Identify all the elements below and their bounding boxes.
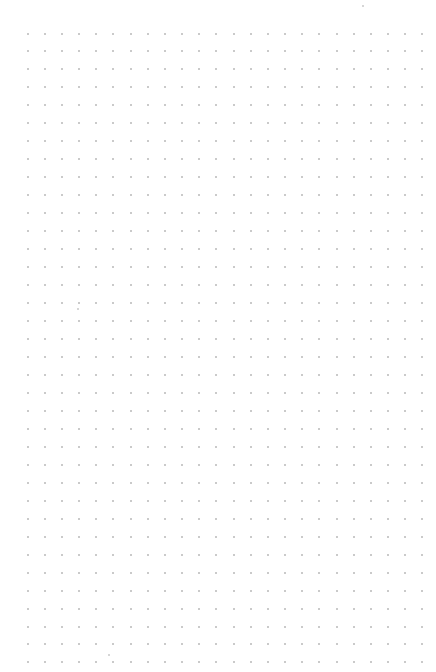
- grid-dot: [250, 122, 252, 124]
- grid-dot: [353, 338, 355, 340]
- grid-dot: [164, 33, 166, 35]
- grid-dot: [421, 86, 423, 88]
- grid-dot: [130, 122, 132, 124]
- grid-dot: [215, 590, 217, 592]
- grid-dot: [215, 50, 217, 52]
- grid-dot: [130, 446, 132, 448]
- grid-dot: [147, 230, 149, 232]
- grid-dot: [215, 338, 217, 340]
- grid-dot: [44, 410, 46, 412]
- grid-dot: [284, 104, 286, 106]
- grid-dot: [421, 140, 423, 142]
- grid-dot: [147, 608, 149, 610]
- grid-dot: [353, 374, 355, 376]
- grid-dot: [421, 536, 423, 538]
- grid-dot: [387, 661, 389, 663]
- grid-dot: [61, 608, 63, 610]
- grid-dot: [404, 356, 406, 358]
- grid-dot: [353, 212, 355, 214]
- grid-dot: [181, 500, 183, 502]
- grid-dot: [336, 410, 338, 412]
- grid-dot: [233, 518, 235, 520]
- grid-dot: [370, 230, 372, 232]
- grid-dot: [78, 482, 80, 484]
- grid-dot: [336, 554, 338, 556]
- grid-dot: [112, 626, 114, 628]
- grid-dot: [387, 554, 389, 556]
- grid-dot: [181, 590, 183, 592]
- grid-dot: [112, 410, 114, 412]
- grid-dot: [181, 661, 183, 663]
- grid-dot: [112, 536, 114, 538]
- grid-dot: [284, 482, 286, 484]
- grid-dot: [353, 248, 355, 250]
- grid-dot: [147, 248, 149, 250]
- grid-dot: [318, 356, 320, 358]
- grid-dot: [421, 194, 423, 196]
- grid-dot: [61, 572, 63, 574]
- grid-dot: [421, 104, 423, 106]
- grid-dot: [164, 374, 166, 376]
- grid-dot: [95, 68, 97, 70]
- grid-dot: [267, 284, 269, 286]
- grid-dot: [301, 33, 303, 35]
- grid-dot: [95, 518, 97, 520]
- grid-dot: [301, 266, 303, 268]
- grid-dot: [215, 392, 217, 394]
- grid-dot: [198, 392, 200, 394]
- grid-dot: [404, 446, 406, 448]
- grid-dot: [336, 194, 338, 196]
- grid-dot: [147, 626, 149, 628]
- grid-dot: [215, 86, 217, 88]
- grid-dot: [181, 518, 183, 520]
- grid-dot: [250, 104, 252, 106]
- grid-dot: [27, 176, 29, 178]
- grid-dot: [370, 194, 372, 196]
- grid-dot: [95, 266, 97, 268]
- grid-dot: [44, 590, 46, 592]
- grid-dot: [336, 266, 338, 268]
- grid-dot: [353, 122, 355, 124]
- grid-dot: [370, 86, 372, 88]
- grid-dot: [353, 446, 355, 448]
- grid-dot: [267, 374, 269, 376]
- dot-grid-canvas[interactable]: [0, 0, 436, 672]
- grid-dot: [215, 158, 217, 160]
- grid-dot: [181, 194, 183, 196]
- grid-dot: [130, 338, 132, 340]
- grid-dot: [404, 68, 406, 70]
- grid-dot: [353, 392, 355, 394]
- grid-dot: [404, 554, 406, 556]
- grid-dot: [387, 302, 389, 304]
- grid-dot: [130, 176, 132, 178]
- grid-dot: [112, 266, 114, 268]
- grid-dot: [147, 33, 149, 35]
- grid-dot: [387, 626, 389, 628]
- grid-dot: [301, 86, 303, 88]
- grid-dot: [181, 230, 183, 232]
- grid-dot: [421, 464, 423, 466]
- grid-dot: [215, 518, 217, 520]
- grid-dot: [421, 33, 423, 35]
- grid-dot: [112, 230, 114, 232]
- grid-dot: [301, 284, 303, 286]
- grid-dot: [112, 518, 114, 520]
- grid-dot: [78, 284, 80, 286]
- grid-dot: [198, 33, 200, 35]
- grid-dot: [130, 428, 132, 430]
- grid-dot: [370, 266, 372, 268]
- grid-dot: [336, 626, 338, 628]
- grid-dot: [370, 590, 372, 592]
- grid-dot: [267, 590, 269, 592]
- grid-dot: [147, 176, 149, 178]
- grid-dot: [250, 248, 252, 250]
- grid-dot: [198, 410, 200, 412]
- grid-dot: [267, 500, 269, 502]
- grid-dot: [370, 176, 372, 178]
- grid-dot: [336, 590, 338, 592]
- grid-dot: [404, 284, 406, 286]
- grid-dot: [301, 248, 303, 250]
- grid-dot: [284, 572, 286, 574]
- grid-dot: [421, 428, 423, 430]
- grid-dot: [233, 536, 235, 538]
